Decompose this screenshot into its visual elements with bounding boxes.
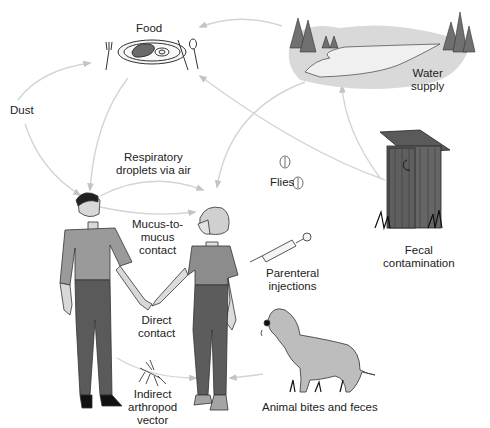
label-animal: Animal bites and feces bbox=[262, 401, 378, 414]
label-parenteral-line1: Parenteral bbox=[266, 267, 319, 280]
label-arthropod-line1: Indirect bbox=[128, 388, 177, 401]
label-direct-line1: Direct bbox=[138, 314, 175, 327]
label-mucus-line1: Mucus-to- bbox=[132, 218, 183, 231]
label-direct-line2: contact bbox=[138, 327, 175, 340]
label-fecal: Fecal contamination bbox=[383, 244, 455, 270]
label-fecal-line2: contamination bbox=[383, 257, 455, 270]
label-food: Food bbox=[136, 22, 162, 35]
label-parenteral-line2: injections bbox=[266, 280, 319, 293]
label-food-text: Food bbox=[136, 22, 162, 35]
label-arthropod: Indirect arthropod vector bbox=[128, 388, 177, 427]
arrow-animal bbox=[230, 374, 263, 378]
label-flies-text: Flies bbox=[270, 176, 294, 189]
arrow-outhouse-to-water bbox=[342, 86, 380, 178]
diagram-artwork bbox=[0, 0, 490, 428]
label-fecal-line1: Fecal bbox=[383, 244, 455, 257]
arrow-respiratory bbox=[100, 181, 203, 196]
water-supply-icon bbox=[289, 12, 475, 89]
label-arthropod-line3: vector bbox=[128, 414, 177, 427]
label-dust-text: Dust bbox=[10, 104, 34, 117]
label-flies: Flies bbox=[270, 176, 294, 189]
label-mucus-line2: mucus bbox=[132, 231, 183, 244]
arrow-arthropod bbox=[117, 358, 196, 378]
label-water-line1: Water bbox=[411, 67, 444, 80]
label-dust: Dust bbox=[10, 104, 34, 117]
label-respiratory-line2: droplets via air bbox=[116, 164, 191, 177]
label-mucus-line3: contact bbox=[132, 244, 183, 257]
arrow-outhouse-to-food bbox=[200, 76, 385, 180]
arrow-water-to-food bbox=[200, 19, 282, 27]
label-water-supply: Water supply bbox=[411, 67, 444, 93]
label-direct: Direct contact bbox=[138, 314, 175, 340]
transmission-diagram: Food Water supply Dust Respiratory dropl… bbox=[0, 0, 490, 428]
label-arthropod-line2: arthropod bbox=[128, 401, 177, 414]
arrow-mucus bbox=[100, 207, 195, 214]
arrow-dust-to-man bbox=[25, 124, 80, 195]
label-animal-text: Animal bites and feces bbox=[262, 401, 378, 414]
label-respiratory-line1: Respiratory bbox=[116, 151, 191, 164]
food-icon bbox=[106, 39, 198, 70]
arrow-dust-to-food bbox=[18, 63, 90, 100]
label-water-line2: supply bbox=[411, 80, 444, 93]
label-mucus: Mucus-to- mucus contact bbox=[132, 218, 183, 257]
outhouse-icon bbox=[375, 130, 450, 228]
label-respiratory: Respiratory droplets via air bbox=[116, 151, 191, 177]
syringe-icon bbox=[250, 233, 311, 262]
label-parenteral: Parenteral injections bbox=[266, 267, 319, 293]
dog-icon bbox=[261, 309, 375, 392]
